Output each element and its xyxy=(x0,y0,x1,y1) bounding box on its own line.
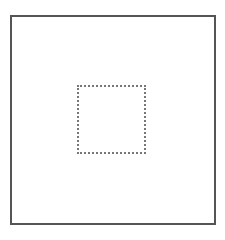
dotted-selection-square xyxy=(77,85,146,154)
